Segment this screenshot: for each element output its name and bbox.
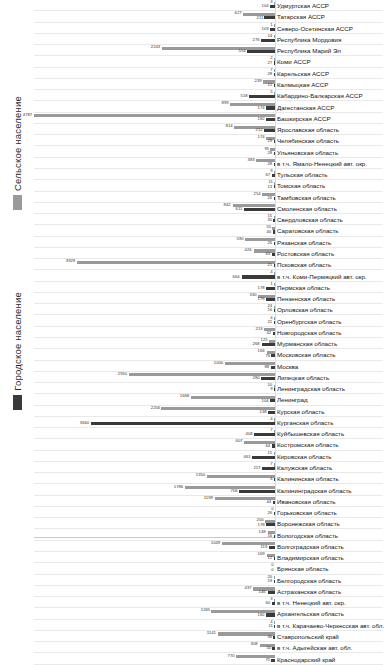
bar-value-label: 3	[270, 597, 272, 601]
category-label: Томская область	[277, 180, 325, 191]
chart-row: 25426Тамбовская область	[34, 192, 383, 203]
bar-value-label: 21	[268, 320, 273, 324]
category-label: Владимирская область	[277, 552, 344, 563]
category-label: Удмуртская АССР	[277, 0, 329, 11]
chart-row: 728Карельская АССР	[34, 68, 383, 79]
category-label: Татарская АССР	[277, 11, 325, 22]
bar-group: 77075	[34, 653, 275, 664]
bar-group: 1668104	[34, 394, 275, 405]
bar-value-label: 12	[268, 556, 273, 560]
bar-group: 14816	[34, 529, 275, 540]
bar-group: 1265182	[34, 608, 275, 619]
category-label: Ростовская область	[277, 248, 334, 259]
bar-group: 5540	[34, 225, 275, 236]
bar-group: 227	[34, 56, 275, 67]
chart-row: 43660Курганская область	[34, 417, 383, 428]
category-label: Костромская область	[277, 439, 338, 450]
bar-group: 899174	[34, 101, 275, 112]
bar-value-label: 3	[270, 0, 272, 4]
plot-area: 3104Удмуртская АССР627211Татарская АССР1…	[34, 0, 383, 546]
bar-group: 842611	[34, 203, 275, 214]
bar-value-label: 276	[253, 38, 260, 42]
category-label: Белгородская область	[277, 575, 341, 586]
bar-value-label: 67	[265, 173, 270, 177]
bar-value-label: 6	[270, 478, 272, 482]
bar-value-label: 770	[228, 654, 235, 658]
bar-urban	[274, 84, 275, 87]
legend-label-rural: Сельское население	[12, 96, 23, 191]
category-label: Кабардино-Балкарская АССР	[277, 90, 363, 101]
chart-row: 00Брянская область	[34, 563, 383, 574]
category-label: в т.ч. Ненецкий авт. окр.	[277, 597, 346, 608]
legend-label-urban: Городское население	[12, 292, 23, 391]
bar-value-label: 29	[267, 140, 272, 144]
chart-row: 1113Томская область	[34, 180, 383, 191]
bar-value-label: 257	[254, 466, 261, 470]
bar-value-label: 104	[261, 399, 268, 403]
bar-value-label: 212	[256, 128, 263, 132]
bar-urban	[268, 411, 275, 414]
category-label: Горьковская область	[277, 507, 337, 518]
bar-urban	[266, 523, 275, 526]
bar-urban	[266, 106, 275, 109]
bar-urban	[262, 467, 275, 470]
bar-value-label: 169	[258, 552, 265, 556]
category-label: Карельская АССР	[277, 68, 329, 79]
bar-value-label: 178	[257, 286, 264, 290]
bar-group: 43660	[34, 417, 275, 428]
bar-group: 60764	[34, 439, 275, 450]
bar-value-label: 2243	[151, 45, 160, 49]
bar-urban	[272, 253, 275, 256]
chart-row: 38328в т.ч. Ямало-Ненецкий авт. окр.	[34, 158, 383, 169]
bar-group: 2416	[34, 304, 275, 315]
bar-value-label: 15	[268, 83, 273, 87]
bar-value-label: 4	[270, 417, 272, 421]
bar-value-label: 182	[257, 117, 264, 121]
bar-urban	[272, 444, 275, 447]
bar-group: 59026	[34, 237, 275, 248]
bar-value-label: 554	[239, 50, 246, 54]
chart-row: 9528Ульяновская область	[34, 146, 383, 157]
chart-row: 227Коми АССР	[34, 56, 383, 67]
bar-value-label: 1199	[204, 496, 213, 500]
bar-group: 200178	[34, 518, 275, 529]
category-label: Воронежская область	[277, 518, 340, 529]
category-label: Калужская область	[277, 462, 332, 473]
bar-value-label: 88	[264, 365, 269, 369]
bar-urban	[274, 625, 275, 628]
bar-group: 728	[34, 68, 275, 79]
bar-value-label: 664	[233, 275, 240, 279]
category-label: Орловская область	[277, 304, 333, 315]
chart-row: 13506Калининская область	[34, 473, 383, 484]
bar-value-label: 178	[257, 523, 264, 527]
bar-urban	[242, 275, 275, 278]
bar-value-label: 518	[240, 95, 247, 99]
bar-value-label: 26	[267, 511, 272, 515]
bar-value-label: 166	[258, 350, 265, 354]
bar-urban	[252, 456, 275, 459]
category-label: Астраханская область	[277, 586, 341, 597]
chart-row: 3104Удмуртская АССР	[34, 0, 383, 11]
chart-row: 77075Краснодарский край	[34, 653, 383, 664]
bar-group: 125268	[34, 338, 275, 349]
category-label: Челябинская область	[277, 135, 339, 146]
chart-row: 59026Рязанская область	[34, 237, 383, 248]
category-label: Псковская область	[277, 259, 331, 270]
chart-row: 16912Владимирская область	[34, 552, 383, 563]
category-label: Курская область	[277, 406, 324, 417]
bar-urban	[266, 287, 275, 290]
bar-urban	[270, 5, 275, 8]
bar-value-label: 138	[260, 410, 267, 414]
bar-value-label: 11	[268, 624, 272, 628]
bar-group: 4787182	[34, 113, 275, 124]
bar-group: 15461	[34, 451, 275, 462]
bar-rural	[244, 441, 275, 444]
category-label: Куйбышевская область	[277, 428, 344, 439]
category-label: Москва	[277, 361, 298, 372]
bar-group: 330176	[34, 293, 275, 304]
chart-row: 17429Челябинская область	[34, 135, 383, 146]
bar-urban	[266, 118, 275, 121]
bar-value-label: 408	[246, 433, 253, 437]
bar-rural	[161, 407, 275, 410]
bar-value-label: 4787	[23, 113, 32, 117]
